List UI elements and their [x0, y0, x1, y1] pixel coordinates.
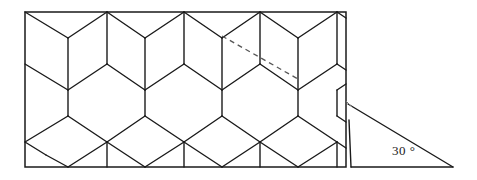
angle-label-30-degrees: 30 °: [392, 143, 415, 159]
figure-container: 30 °: [0, 0, 477, 180]
